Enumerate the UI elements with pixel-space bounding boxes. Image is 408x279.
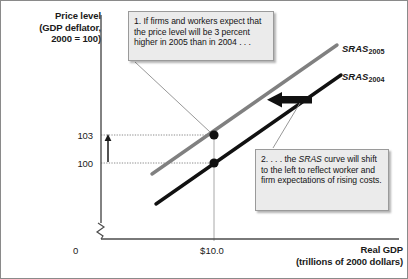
callout-1-text: If firms and workers expect that the pri…	[134, 16, 261, 47]
callout-1-leader	[135, 62, 210, 132]
callout-1-number: 1.	[134, 16, 141, 26]
leftward-shift-arrow	[267, 92, 312, 108]
callout-expectations: 1. If firms and workers expect that the …	[128, 11, 274, 61]
callout-2-leader	[273, 103, 300, 148]
y-axis-break	[97, 223, 104, 239]
callout-shift-explanation: 2. . . . the SRAS curve will shift to th…	[255, 149, 389, 211]
point-2004	[209, 158, 218, 167]
callout-2-emphasis: SRAS	[299, 154, 322, 164]
point-2005	[209, 130, 218, 139]
callout-2-text-before: the	[284, 154, 296, 164]
sras-shift-diagram: Price level (GDP deflator, 2000 = 100) R…	[0, 0, 408, 279]
callout-2-number: 2. . . .	[261, 154, 282, 164]
price-rise-arrow-head	[105, 134, 112, 141]
